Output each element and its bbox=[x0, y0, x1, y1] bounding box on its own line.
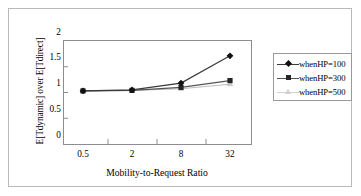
legend-label-whenHP-300: whenHP=300 bbox=[299, 73, 345, 83]
chart-figure: E[Tdynamic] over E[Tdirect] 2 1.5 1 0.5 … bbox=[8, 8, 352, 187]
x-tick-0-5: 0.5 bbox=[63, 149, 103, 159]
x-axis-tick-labels: 0.5 2 8 32 bbox=[63, 149, 252, 163]
x-tick-32: 32 bbox=[210, 149, 250, 159]
y-tick-0: 0 bbox=[27, 131, 61, 140]
legend-sample-diamond bbox=[277, 59, 299, 69]
y-axis-tick-labels: 2 1.5 1 0.5 0 bbox=[23, 9, 61, 188]
y-tick-1: 1 bbox=[27, 79, 61, 88]
legend-label-whenHP-100: whenHP=100 bbox=[299, 59, 345, 69]
y-tick-marks bbox=[64, 67, 68, 119]
x-tick-8: 8 bbox=[161, 149, 201, 159]
y-tick-2: 2 bbox=[27, 28, 61, 37]
legend-sample-triangle bbox=[277, 87, 299, 97]
chart-legend: whenHP=100 whenHP=300 whenHP=500 bbox=[273, 53, 352, 101]
legend-item-whenHP-100[interactable]: whenHP=100 bbox=[274, 57, 351, 71]
legend-sample-square bbox=[277, 73, 299, 83]
x-axis-title: Mobility-to-Request Ratio bbox=[49, 167, 265, 178]
legend-item-whenHP-500[interactable]: whenHP=500 bbox=[274, 85, 351, 99]
x-tick-2: 2 bbox=[112, 149, 152, 159]
x-tick-marks bbox=[108, 139, 206, 144]
legend-item-whenHP-300[interactable]: whenHP=300 bbox=[274, 71, 351, 85]
series-whenHP-100 bbox=[80, 52, 234, 94]
plot-area bbox=[63, 40, 252, 145]
legend-label-whenHP-500: whenHP=500 bbox=[299, 87, 345, 97]
y-tick-1-5: 1.5 bbox=[27, 53, 61, 62]
plot-svg bbox=[64, 41, 251, 144]
y-tick-0-5: 0.5 bbox=[27, 105, 61, 114]
